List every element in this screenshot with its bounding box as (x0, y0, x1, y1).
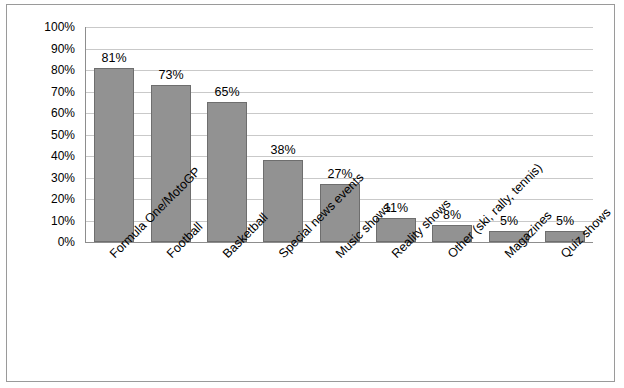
x-axis-category-labels: Formula One/MotoGPFootballBasketballSpec… (85, 245, 615, 375)
y-axis-tick-label: 90% (5, 43, 75, 55)
y-axis-tick-label: 70% (5, 86, 75, 98)
bar-value-label: 65% (197, 85, 257, 99)
gridline (86, 27, 593, 28)
y-axis-tick-label: 20% (5, 193, 75, 205)
y-axis-tick-label: 80% (5, 64, 75, 76)
bar-value-label: 81% (84, 51, 144, 65)
y-axis-tick-label: 30% (5, 172, 75, 184)
y-axis-tick-label: 100% (5, 21, 75, 33)
y-axis-tick-label: 40% (5, 150, 75, 162)
bar (94, 68, 134, 242)
bar (207, 102, 247, 242)
y-axis-tick-label: 0% (5, 236, 75, 248)
y-axis-tick-label: 10% (5, 215, 75, 227)
y-axis-tick-label: 50% (5, 129, 75, 141)
y-axis-tick-label: 60% (5, 107, 75, 119)
gridline (86, 49, 593, 50)
bar-value-label: 73% (141, 68, 201, 82)
bar-value-label: 38% (253, 143, 313, 157)
chart-frame: 100%90%80%70%60%50%40%30%20%10%0% 81%73%… (6, 4, 615, 382)
y-axis-tick-labels: 100%90%80%70%60%50%40%30%20%10%0% (7, 5, 85, 265)
